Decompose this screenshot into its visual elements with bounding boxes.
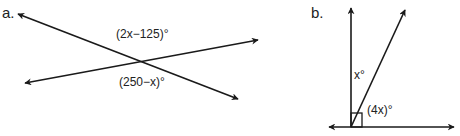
angle-label-4x: (4x)° bbox=[367, 103, 392, 117]
angle-label-bottom: (250−x)° bbox=[119, 75, 165, 89]
part-b-label: b. bbox=[311, 4, 324, 21]
angle-label-x: x° bbox=[354, 68, 365, 82]
angle-label-top: (2x−125)° bbox=[116, 27, 169, 41]
part-a-label: a. bbox=[2, 4, 15, 21]
